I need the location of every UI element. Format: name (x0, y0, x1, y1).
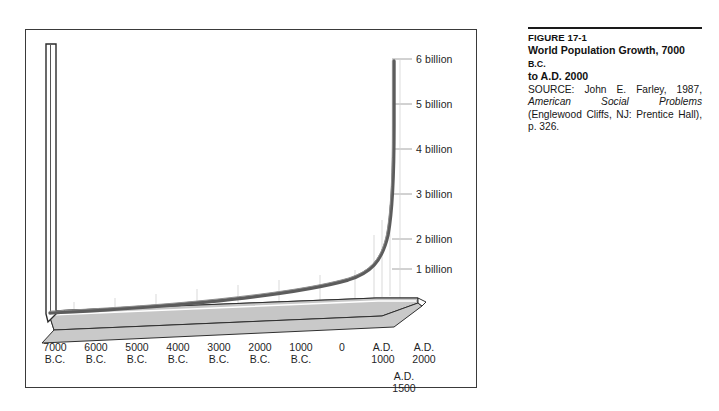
xtick-label-1000bc: 1000 B.C. (278, 342, 324, 365)
chart-plot-area: 6 billion 5 billion 4 billion 3 billion … (26, 30, 478, 389)
xtick-label-ad1500: A.D. 1500 (381, 371, 427, 394)
xtick-ad2000-line2: 2000 (401, 354, 447, 366)
xtick-label-ad2000: A.D. 2000 (401, 342, 447, 365)
population-curve (50, 61, 394, 313)
xtick-ad1500-line2: 1500 (381, 383, 427, 395)
xtick-2000bc-line1: 2000 (248, 341, 271, 353)
source-publisher: (Englewood Cliffs, NJ: Prentice Hall), p… (528, 109, 702, 132)
ytick-label-4: 4 billion (416, 143, 453, 155)
source-title-italic: American Social Problems (528, 96, 702, 107)
xtick-label-6000bc: 6000 B.C. (73, 342, 119, 365)
xtick-label-zero: 0 (319, 342, 365, 354)
xtick-ad1500-line1: A.D. (394, 370, 414, 382)
caption-top-rule (528, 27, 702, 29)
ytick-label-3: 3 billion (416, 188, 453, 200)
xtick-2000bc-line2: B.C. (237, 354, 283, 366)
xtick-7000bc-line2: B.C. (32, 354, 78, 366)
xtick-6000bc-line2: B.C. (73, 354, 119, 366)
xtick-ad1000-line1: A.D. (373, 341, 393, 353)
ytick-label-1: 1 billion (416, 263, 453, 275)
xtick-ad1000-line2: 1000 (360, 354, 406, 366)
population-growth-chart (26, 30, 478, 389)
figure-title-line2: to A.D. 2000 (528, 70, 588, 82)
figure-caption-block: FIGURE 17-1 World Population Growth, 700… (528, 27, 702, 134)
xtick-1000bc-line1: 1000 (289, 341, 312, 353)
xtick-1000bc-line2: B.C. (278, 354, 324, 366)
xtick-3000bc-line1: 3000 (207, 341, 230, 353)
xtick-5000bc-line1: 5000 (125, 341, 148, 353)
figure-title: World Population Growth, 7000 B.C. to A.… (528, 44, 702, 83)
xtick-label-3000bc: 3000 B.C. (196, 342, 242, 365)
base-plate-3d (42, 298, 426, 343)
xtick-7000bc-line1: 7000 (43, 341, 66, 353)
figure-source: SOURCE: John E. Farley, 1987, American S… (528, 84, 702, 134)
source-author-year: John E. Farley, 1987, (584, 84, 702, 95)
xtick-5000bc-line2: B.C. (114, 354, 160, 366)
xtick-3000bc-line2: B.C. (196, 354, 242, 366)
figure-title-era: B.C. (528, 59, 546, 69)
figure-frame: 6 billion 5 billion 4 billion 3 billion … (25, 29, 477, 388)
y-axis-post (46, 44, 56, 322)
xtick-label-5000bc: 5000 B.C. (114, 342, 160, 365)
gridlines (74, 205, 390, 313)
ytick-label-6: 6 billion (416, 53, 453, 65)
xtick-label-7000bc: 7000 B.C. (32, 342, 78, 365)
xtick-label-ad1000: A.D. 1000 (360, 342, 406, 365)
figure-word: FIGURE (528, 32, 565, 43)
source-prefix: SOURCE: (528, 84, 584, 95)
xtick-ad2000-line1: A.D. (414, 341, 434, 353)
figure-number-line: FIGURE 17-1 (528, 32, 702, 43)
population-curve-highlight (50, 61, 392, 311)
xtick-6000bc-line1: 6000 (84, 341, 107, 353)
figure-number: 17-1 (568, 32, 587, 43)
xtick-zero-line1: 0 (339, 341, 345, 353)
xtick-label-4000bc: 4000 B.C. (155, 342, 201, 365)
xtick-4000bc-line1: 4000 (166, 341, 189, 353)
ytick-label-5: 5 billion (416, 98, 453, 110)
xtick-label-2000bc: 2000 B.C. (237, 342, 283, 365)
figure-title-line1: World Population Growth, 7000 (528, 44, 685, 56)
ytick-label-2: 2 billion (416, 233, 453, 245)
xtick-4000bc-line2: B.C. (155, 354, 201, 366)
